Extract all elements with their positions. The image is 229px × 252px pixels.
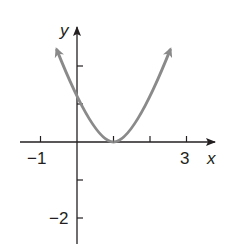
x-tick-label-neg1: −1 xyxy=(27,149,46,168)
graph: y x −1 3 −2 xyxy=(0,0,229,252)
parabola-curve-left xyxy=(57,49,114,142)
y-tick-label-neg2: −2 xyxy=(49,209,68,228)
x-axis-label: x xyxy=(206,149,216,168)
y-axis-label: y xyxy=(59,21,70,40)
x-tick-label-3: 3 xyxy=(180,149,189,168)
parabola-curve-right xyxy=(114,49,171,142)
parabola-curve xyxy=(56,49,172,174)
